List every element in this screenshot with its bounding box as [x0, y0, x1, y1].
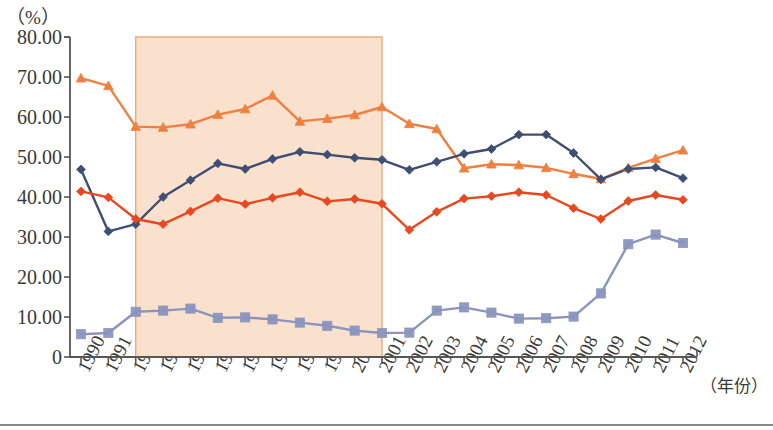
data-point-marker [405, 328, 414, 337]
data-point-marker [542, 314, 551, 323]
data-point-marker [678, 145, 688, 154]
data-point-marker [213, 313, 222, 322]
data-point-marker [542, 191, 551, 200]
data-point-marker [350, 326, 359, 335]
data-point-marker [158, 306, 167, 315]
data-point-marker [514, 188, 523, 197]
data-point-marker [679, 195, 688, 204]
data-point-marker [131, 307, 140, 316]
data-point-marker [651, 230, 660, 239]
data-point-marker [678, 238, 687, 247]
data-point-marker [514, 130, 523, 139]
data-point-marker [377, 328, 386, 337]
data-point-marker [459, 303, 468, 312]
data-point-marker [460, 149, 469, 158]
data-point-marker [186, 304, 195, 313]
data-point-marker [268, 315, 277, 324]
data-point-marker [624, 240, 633, 249]
data-point-marker [77, 187, 86, 196]
data-point-marker [76, 330, 85, 339]
data-point-marker [679, 174, 688, 183]
data-point-marker [432, 157, 441, 166]
data-point-marker [405, 165, 414, 174]
data-point-marker [651, 191, 660, 200]
data-point-marker [569, 312, 578, 321]
data-point-marker [104, 227, 113, 236]
data-point-marker [295, 318, 304, 327]
line-chart: （%） （年份） 010.0020.0030.0040.0050.0060.00… [0, 0, 773, 430]
data-point-marker [596, 289, 605, 298]
data-point-marker [487, 308, 496, 317]
data-point-marker [241, 313, 250, 322]
data-point-marker [569, 204, 578, 213]
data-point-marker [104, 328, 113, 337]
data-point-marker [77, 165, 86, 174]
data-point-marker [651, 163, 660, 172]
data-point-marker [514, 314, 523, 323]
data-point-marker [487, 145, 496, 154]
plot-area [0, 0, 773, 430]
data-point-marker [487, 192, 496, 201]
data-point-marker [76, 73, 86, 82]
data-point-marker [432, 306, 441, 315]
data-point-marker [323, 321, 332, 330]
data-point-marker [460, 194, 469, 203]
footer-divider [0, 424, 773, 426]
